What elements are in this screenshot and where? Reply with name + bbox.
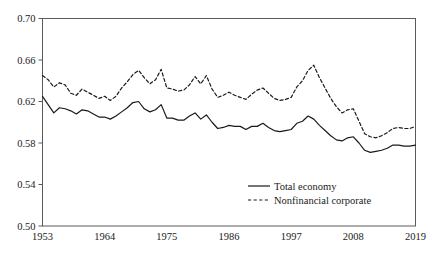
legend-label-nonfinancial-corporate: Nonfinancial corporate [274, 195, 371, 206]
line-chart: 0.500.540.580.620.660.70 195319641975198… [0, 0, 432, 254]
x-tick-label: 1953 [32, 231, 53, 242]
x-tick-label: 1986 [219, 231, 240, 242]
legend-label-total-economy: Total economy [274, 181, 337, 192]
x-tick-label: 1975 [156, 231, 177, 242]
x-tick-label: 1964 [94, 231, 116, 242]
y-tick-label: 0.62 [17, 96, 35, 107]
chart-container: 0.500.540.580.620.660.70 195319641975198… [0, 0, 432, 254]
y-tick-label: 0.66 [17, 55, 35, 66]
x-tick-label: 2008 [343, 231, 364, 242]
x-tick-label: 2019 [405, 231, 426, 242]
x-tick-label: 1997 [281, 231, 302, 242]
y-tick-label: 0.54 [17, 179, 36, 190]
y-tick-label: 0.70 [17, 13, 35, 24]
y-tick-label: 0.50 [17, 221, 35, 232]
y-tick-label: 0.58 [17, 138, 35, 149]
